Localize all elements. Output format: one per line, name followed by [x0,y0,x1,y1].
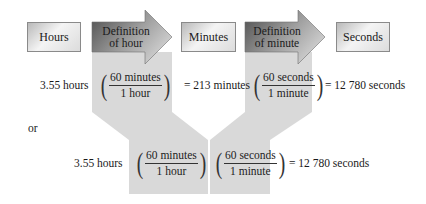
factor-numerator: 60 minutes [145,149,198,164]
arrow1-line2: of hour [109,37,143,49]
hours-box: Hours [27,22,81,52]
combined-factor-hour: ( 60 minutes 1 hour ) [135,148,208,178]
seconds-box: Seconds [336,22,390,52]
stepwise-start: 3.55 hours [40,79,89,91]
factor-denominator: 1 minute [268,86,309,100]
arrow2-line1: Definition [253,25,300,37]
combined-start: 3.55 hours [74,157,123,169]
stepwise-factor-minute: ( 60 seconds 1 minute ) [252,70,325,100]
left-paren: ( [216,148,223,178]
unit-conversion-diagram: Hours Minutes Seconds Definition of hour… [0,0,426,204]
hours-label: Hours [39,30,68,45]
factor-denominator: 1 minute [230,164,271,178]
definition-of-minute-label: Definition of minute [246,22,308,52]
combined-factor-minute: ( 60 seconds 1 minute ) [214,148,287,178]
factor-denominator: 1 hour [121,86,151,100]
right-paren: ) [279,148,286,178]
right-paren: ) [317,70,324,100]
factor-denominator: 1 hour [157,164,187,178]
factor-numerator: 60 seconds [224,149,277,164]
arrow2-line2: of minute [255,37,299,49]
stepwise-result1: = 213 minutes [184,79,250,91]
combined-result: = 12 780 seconds [289,157,369,169]
factor-numerator: 60 seconds [262,71,315,86]
left-paren: ( [254,70,261,100]
left-paren: ( [137,148,144,178]
left-paren: ( [101,70,108,100]
minutes-box: Minutes [181,22,236,52]
definition-of-hour-label: Definition of hour [96,22,156,52]
right-paren: ) [164,70,171,100]
stepwise-factor-hour: ( 60 minutes 1 hour ) [99,70,172,100]
stepwise-result2: = 12 780 seconds [325,79,405,91]
arrow1-line1: Definition [102,25,149,37]
seconds-label: Seconds [343,30,383,45]
minutes-label: Minutes [189,30,228,45]
right-paren: ) [200,148,207,178]
factor-numerator: 60 minutes [109,71,162,86]
or-connector: or [28,122,38,134]
